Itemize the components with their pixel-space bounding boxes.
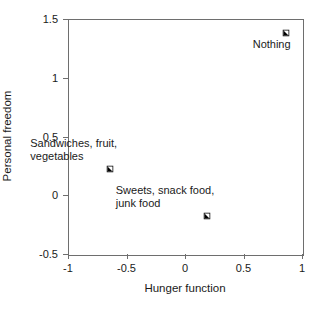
scatter-chart-figure: -1-0.500.51 -0.500.511.5 NothingSandwich… <box>0 0 322 309</box>
y-tick-label: 1 <box>52 72 58 84</box>
data-point-label: Sweets, snack food, junk food <box>116 184 214 210</box>
data-point-marker <box>282 30 289 37</box>
data-point-marker <box>107 166 114 173</box>
x-tick <box>68 254 69 259</box>
y-tick <box>63 19 68 20</box>
y-tick-label: -0.5 <box>39 248 58 260</box>
y-tick <box>63 254 68 255</box>
x-tick-label: 0 <box>182 262 188 274</box>
x-tick <box>302 254 303 259</box>
y-tick-label: 0 <box>52 189 58 201</box>
y-tick-label: 1.5 <box>43 13 58 25</box>
x-tick <box>244 254 245 259</box>
x-tick-label: -1 <box>63 262 73 274</box>
data-point-marker <box>204 213 211 220</box>
x-tick-label: 0.5 <box>236 262 251 274</box>
y-tick <box>63 78 68 79</box>
x-axis-title: Hunger function <box>68 282 302 294</box>
y-tick <box>63 195 68 196</box>
data-point-label: Sandwiches, fruit, vegetables <box>30 137 117 163</box>
x-tick-label: 1 <box>299 262 305 274</box>
x-tick-label: -0.5 <box>117 262 136 274</box>
x-tick <box>185 254 186 259</box>
y-axis-title: Personal freedom <box>1 91 13 182</box>
x-tick <box>127 254 128 259</box>
data-point-label: Nothing <box>253 38 291 51</box>
plot-area: -1-0.500.51 -0.500.511.5 NothingSandwich… <box>68 19 302 254</box>
